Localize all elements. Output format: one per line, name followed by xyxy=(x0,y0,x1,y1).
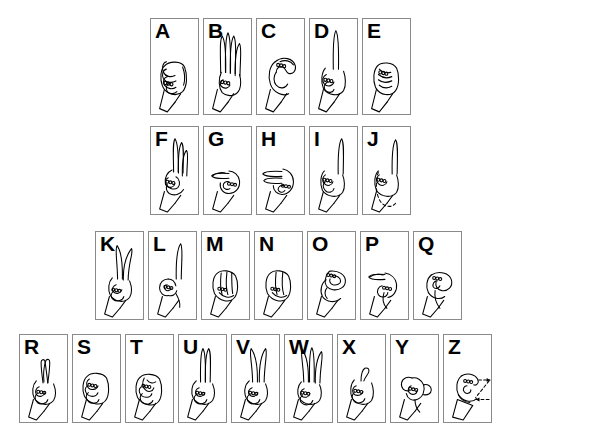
letter-card-s[interactable]: S xyxy=(72,334,121,423)
letter-card-e[interactable]: E xyxy=(362,18,411,115)
asl-hand-v-icon xyxy=(232,335,279,422)
letter-card-y[interactable]: Y xyxy=(390,334,439,423)
letter-card-m[interactable]: M xyxy=(201,231,250,320)
asl-hand-c-icon xyxy=(257,19,304,114)
letter-card-w[interactable]: W xyxy=(284,334,333,423)
asl-hand-h-icon xyxy=(257,127,304,214)
letter-card-j[interactable]: J xyxy=(362,126,411,215)
letter-card-c[interactable]: C xyxy=(256,18,305,115)
letter-card-x[interactable]: X xyxy=(337,334,386,423)
letter-card-b[interactable]: B xyxy=(203,18,252,115)
asl-hand-g-icon xyxy=(204,127,251,214)
letter-card-h[interactable]: H xyxy=(256,126,305,215)
asl-hand-e-icon xyxy=(363,19,410,114)
letter-card-n[interactable]: N xyxy=(254,231,303,320)
asl-hand-b-icon xyxy=(204,19,251,114)
asl-hand-i-icon xyxy=(310,127,357,214)
letter-card-f[interactable]: F xyxy=(150,126,199,215)
letter-card-z[interactable]: Z xyxy=(443,334,492,423)
asl-hand-q-icon xyxy=(414,232,461,319)
letter-card-l[interactable]: L xyxy=(148,231,197,320)
asl-hand-w-icon xyxy=(285,335,332,422)
asl-hand-k-icon xyxy=(96,232,143,319)
letter-card-u[interactable]: U xyxy=(178,334,227,423)
letter-card-r[interactable]: R xyxy=(19,334,68,423)
letter-card-a[interactable]: A xyxy=(150,18,199,115)
asl-hand-f-icon xyxy=(151,127,198,214)
alphabet-row-2: FGHIJ xyxy=(150,126,411,215)
letter-card-p[interactable]: P xyxy=(360,231,409,320)
asl-hand-y-icon xyxy=(391,335,438,422)
asl-hand-x-icon xyxy=(338,335,385,422)
asl-hand-j-icon xyxy=(363,127,410,214)
alphabet-row-1: ABCDE xyxy=(150,18,411,115)
letter-card-o[interactable]: O xyxy=(307,231,356,320)
asl-hand-a-icon xyxy=(151,19,198,114)
asl-hand-r-icon xyxy=(20,335,67,422)
asl-alphabet-chart: ABCDEFGHIJKLMNOPQRSTUVWXYZ xyxy=(0,0,610,444)
letter-card-v[interactable]: V xyxy=(231,334,280,423)
asl-hand-n-icon xyxy=(255,232,302,319)
asl-hand-p-icon xyxy=(361,232,408,319)
asl-hand-s-icon xyxy=(73,335,120,422)
asl-hand-m-icon xyxy=(202,232,249,319)
asl-hand-o-icon xyxy=(308,232,355,319)
letter-card-t[interactable]: T xyxy=(125,334,174,423)
letter-card-d[interactable]: D xyxy=(309,18,358,115)
alphabet-row-3: KLMNOPQ xyxy=(95,231,462,320)
asl-hand-t-icon xyxy=(126,335,173,422)
letter-card-q[interactable]: Q xyxy=(413,231,462,320)
asl-hand-l-icon xyxy=(149,232,196,319)
letter-card-i[interactable]: I xyxy=(309,126,358,215)
letter-card-k[interactable]: K xyxy=(95,231,144,320)
asl-hand-z-icon xyxy=(444,335,491,422)
alphabet-row-4: RSTUVWXYZ xyxy=(19,334,492,423)
asl-hand-u-icon xyxy=(179,335,226,422)
letter-card-g[interactable]: G xyxy=(203,126,252,215)
asl-hand-d-icon xyxy=(310,19,357,114)
